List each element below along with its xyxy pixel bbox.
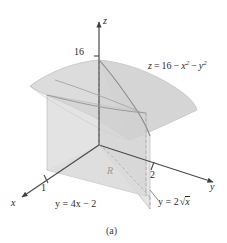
sqrt-icon: √x — [179, 196, 190, 207]
x-tick-label-1: 1 — [41, 183, 46, 193]
region-label-R: R — [107, 166, 113, 176]
z-axis-label: z — [103, 16, 107, 26]
surface-equation-minus-2: − — [191, 60, 197, 71]
z-tick-label-16: 16 — [74, 47, 84, 57]
surface-equation-equals: = — [154, 60, 160, 71]
x-axis-label: x — [11, 198, 15, 208]
surface-equation-minus-1: − — [174, 60, 180, 71]
y-tick-label-2: 2 — [150, 170, 155, 180]
curve-equation-prefix: y = 2 — [158, 196, 179, 207]
surface-equation-constant: 16 — [162, 60, 172, 71]
surface-equation-label: z=16−x2−y2 — [148, 60, 207, 71]
curve-equation-label: y = 2√x — [158, 196, 190, 207]
y-axis-label: y — [210, 182, 214, 192]
figure-caption: (a) — [106, 226, 117, 236]
line-equation-label: y = 4x − 2 — [55, 199, 96, 209]
surface-plot-graphic — [0, 0, 227, 243]
curve-equation-radicand: x — [185, 196, 189, 207]
figure-container: z y x 16 1 2 z=16−x2−y2 y = 4x − 2 y = 2… — [0, 0, 227, 243]
surface-equation-y-exponent: 2 — [203, 59, 207, 67]
surface-equation-x-exponent: 2 — [186, 59, 190, 67]
surface-equation-z: z — [148, 60, 152, 71]
leader-line-sqrt — [150, 190, 158, 200]
